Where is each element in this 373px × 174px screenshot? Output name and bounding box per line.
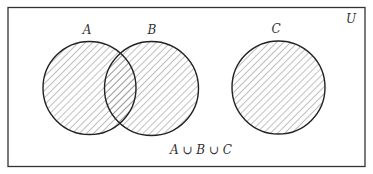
universe-label: U — [346, 12, 357, 26]
set-b-label: B — [147, 23, 157, 37]
union-caption: A ∪ B ∪ C — [169, 143, 232, 157]
set-a-label: A — [82, 23, 92, 37]
set-c-label: C — [271, 22, 280, 36]
venn-diagram: A B C U A ∪ B ∪ C — [0, 0, 373, 174]
